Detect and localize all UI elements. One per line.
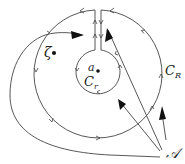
label-a: a bbox=[88, 62, 95, 73]
label-CR-sub: R bbox=[175, 71, 181, 80]
label-Cr: Cr bbox=[84, 75, 98, 88]
arrowhead-top bbox=[105, 28, 113, 42]
label-Cr-main: C bbox=[84, 74, 94, 89]
label-Cr-sub: r bbox=[94, 82, 98, 91]
arrowhead-right bbox=[159, 106, 166, 120]
label-zeta: ζ bbox=[44, 45, 52, 59]
label-CR-main: C bbox=[165, 63, 175, 78]
diagram-canvas: ζ a Cr CR 𝒜 bbox=[0, 0, 185, 164]
label-CR: CR bbox=[165, 64, 181, 77]
arrowhead-outer-curve bbox=[71, 31, 84, 39]
point-zeta bbox=[52, 51, 56, 55]
label-A: 𝒜 bbox=[166, 146, 179, 160]
point-a bbox=[96, 69, 100, 73]
